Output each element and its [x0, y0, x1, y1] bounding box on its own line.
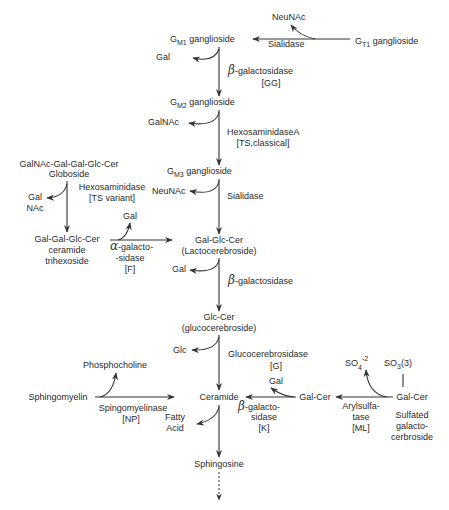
enzyme-arylsulfatase-disease: [ML] — [352, 423, 370, 433]
product-gal-trihexoside: Gal — [123, 211, 137, 221]
enzyme-beta-galactosidase-k-2: sidase — [251, 412, 277, 422]
arrow-neunac-release-top — [291, 25, 315, 39]
node-galcer: Gal-Cer — [299, 392, 331, 402]
arrow-neunac-release-gm3 — [190, 181, 219, 192]
product-neunac-top: NeuNAc — [272, 12, 306, 22]
enzyme-beta-galactosidase-k-1: β-galacto- — [237, 399, 280, 413]
node-ceramide: Ceramide — [199, 392, 238, 402]
arrow-fatty-acid-release — [197, 407, 219, 424]
product-fatty-acid-1: Fatty — [165, 412, 186, 422]
enzyme-alpha-galactosidase-2: -sidase — [115, 253, 144, 263]
node-gt1-ganglioside: GT1 ganglioside — [355, 36, 418, 48]
product-galnac-globoside-1: Gal — [28, 192, 42, 202]
enzyme-beta-galactosidase-k-disease: [K] — [258, 423, 269, 433]
node-sulfated-galcer-label-1: Sulfated — [395, 410, 428, 420]
enzyme-beta-galactosidase-gm1: β-galactosidase — [227, 63, 293, 77]
product-sulfate-so4: SO4-2 — [345, 355, 368, 371]
node-sulfated-galcer-label-2: galacto- — [396, 421, 428, 431]
arrow-galnac-release-gm2 — [189, 112, 219, 124]
enzyme-glucocerebrosidase-disease: [G] — [270, 361, 282, 371]
product-gal-galcer: Gal — [269, 376, 283, 386]
node-sphingosine: Sphingosine — [194, 459, 244, 469]
product-glc: Glc — [173, 345, 187, 355]
enzyme-arylsulfatase-1: Arylsulfa- — [342, 401, 380, 411]
node-lactocerebroside-label: (Lactocerebroside) — [181, 246, 256, 256]
product-neunac-gm3: NeuNAc — [152, 186, 186, 196]
arrow-phosphocholine-release — [100, 373, 116, 397]
node-globoside-formula: GalNAc-Gal-Gal-Glc-Cer — [19, 159, 118, 169]
node-gm3-ganglioside: GM3 ganglioside — [167, 166, 232, 178]
product-fatty-acid-2: Acid — [166, 423, 184, 433]
enzyme-hexosaminidase-variant-disease: [TS variant] — [89, 193, 135, 203]
node-globoside-label: Globoside — [49, 169, 90, 179]
product-gal-gm1: Gal — [156, 52, 170, 62]
node-ceramide-trihexoside-formula: Gal-Gal-Glc-Cer — [34, 234, 99, 244]
enzyme-sphingomyelinase: Spingomyelinase — [99, 403, 168, 413]
enzyme-hexosaminidase-a: HexosaminidaseA — [227, 127, 300, 137]
node-gm2-ganglioside: GM2 ganglioside — [170, 97, 235, 109]
product-galnac-globoside-2: NAc — [26, 203, 44, 213]
product-gal-lactocerebroside: Gal — [172, 264, 186, 274]
sphingolipid-pathway-diagram: GT1 ganglioside GM1 ganglioside GM2 gang… — [0, 0, 449, 510]
enzyme-alpha-galactosidase-disease: [F] — [125, 264, 136, 274]
enzyme-alpha-galactosidase-1: α-galacto- — [110, 239, 153, 253]
enzyme-sphingomyelinase-disease: [NP] — [122, 414, 140, 424]
node-sphingomyelin: Sphingomyelin — [28, 392, 87, 402]
node-ceramide-trihexoside-label-2: trihexoside — [45, 256, 89, 266]
enzyme-beta-galactosidase-gm1-disease: [GG] — [261, 78, 280, 88]
node-gm1-ganglioside: GM1 ganglioside — [170, 34, 235, 46]
product-so3: SO3(3) — [384, 358, 412, 370]
arrow-gal-release-gm1 — [193, 49, 219, 59]
arrow-galnac-release-globoside — [47, 184, 67, 198]
node-sulfated-galcer-label-3: cerbroside — [391, 432, 433, 442]
node-lactocerebroside-formula: Gal-Glc-Cer — [195, 235, 243, 245]
node-glucocerebroside-formula: Glc-Cer — [204, 312, 235, 322]
arrow-gal-release-galcer — [271, 388, 294, 397]
product-galnac-gm2: GalNAc — [148, 117, 180, 127]
enzyme-beta-galactosidase-lacto: β-galactosidase — [227, 273, 293, 287]
node-sulfated-galcer-formula: Gal-Cer — [396, 392, 428, 402]
enzyme-glucocerebrosidase: Glucocerebrosidase — [228, 349, 308, 359]
arrow-sulfate-release — [366, 370, 387, 397]
enzyme-hexosaminidase-variant: Hexosaminidase — [79, 182, 146, 192]
node-glucocerebroside-label: (glucocerebroside) — [182, 323, 257, 333]
enzyme-sialidase-gm3: Sialidase — [227, 191, 264, 201]
product-phosphocholine: Phosphocholine — [83, 360, 147, 370]
node-ceramide-trihexoside-label-1: ceramide — [48, 245, 85, 255]
arrow-gal-release-lactocerebroside — [190, 260, 219, 271]
enzyme-hexosaminidase-a-disease: [TS,classical] — [236, 138, 289, 148]
enzyme-arylsulfatase-2: tase — [352, 412, 369, 422]
arrow-gal-release-trihexoside — [118, 223, 130, 240]
enzyme-sialidase-top: Sialidase — [268, 39, 305, 49]
arrow-glc-release — [192, 337, 219, 350]
